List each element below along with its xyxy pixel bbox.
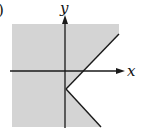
x-axis-label: x — [127, 62, 136, 80]
inequality-region-graph: y x ) — [0, 0, 141, 133]
y-axis-label: y — [59, 0, 69, 17]
x-axis-arrow-icon — [116, 68, 125, 74]
part-label-fragment: ) — [0, 1, 4, 19]
